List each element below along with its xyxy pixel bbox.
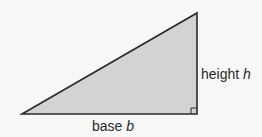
right-triangle — [22, 13, 197, 114]
base-label: base b — [92, 119, 134, 133]
base-label-text: base — [92, 118, 122, 134]
base-variable: b — [126, 118, 134, 134]
height-label-text: height — [201, 66, 239, 82]
height-label: height h — [201, 67, 251, 81]
height-variable: h — [243, 66, 251, 82]
